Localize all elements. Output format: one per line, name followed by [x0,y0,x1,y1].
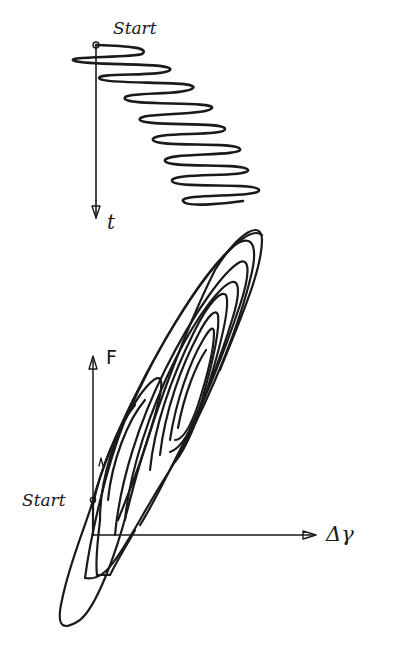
delta-gamma-axis [93,531,316,539]
oscillating-signal [73,45,259,205]
top-start-label: Start [113,18,157,38]
delta-gamma-axis-label: Δγ [326,522,354,546]
time-axis [92,42,100,218]
direction-arrow [99,458,103,466]
bottom-start-label: Start [22,490,66,510]
diagram-canvas [0,0,397,645]
t-axis-label: t [107,210,115,234]
hysteresis-loops [60,230,262,626]
f-axis-label: F [106,346,117,368]
